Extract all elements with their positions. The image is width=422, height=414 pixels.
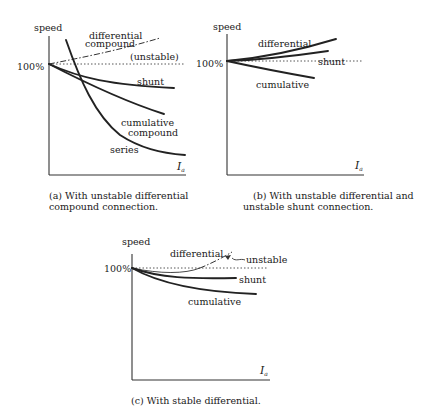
panel-c-y-label: speed <box>122 236 150 247</box>
panel-b-label-cumulative: cumulative <box>256 79 309 90</box>
panel-b-cumulative-curve <box>227 61 314 78</box>
panel-c-cumulative-curve <box>132 268 256 294</box>
panel-c-caption: (c) With stable differential. <box>131 395 261 406</box>
panel-b-caption-line-2: unstable shunt connection. <box>243 201 373 212</box>
panel-a: speed 100% Ia differential compound (uns… <box>17 22 188 212</box>
panel-c-label-cumulative: cumulative <box>188 296 241 307</box>
speed-current-diagram: speed 100% Ia differential compound (uns… <box>0 0 422 414</box>
panel-b-x-label: Ia <box>354 159 363 172</box>
panel-a-caption-line-1: (a) With unstable differential <box>49 190 188 201</box>
panel-a-label-differential-compound: compound <box>85 38 135 49</box>
panel-c-shunt-curve <box>132 268 236 278</box>
panel-c-100-percent-label: 100% <box>104 263 131 274</box>
panel-b-100-percent-label: 100% <box>196 58 223 69</box>
panel-c-label-unstable: unstable <box>246 254 288 265</box>
panel-c: speed 100% Ia differential unstable shun… <box>104 236 288 406</box>
panel-b-label-differential: differential <box>258 38 311 49</box>
panel-c-unstable-leader-line <box>232 258 245 260</box>
panel-b-y-label: speed <box>213 21 241 32</box>
panel-b-label-shunt: shunt <box>318 56 345 67</box>
panel-b-caption-line-1: (b) With unstable differential and <box>253 190 414 201</box>
panel-a-caption-line-2: compound connection. <box>49 201 158 212</box>
panel-b-shunt-curve <box>227 51 328 61</box>
panel-c-label-differential: differential <box>170 248 223 259</box>
panel-a-label-cumulative-compound: compound <box>128 127 178 138</box>
panel-a-label-series: series <box>110 144 139 155</box>
panel-a-100-percent-label: 100% <box>17 61 44 72</box>
panel-a-x-label: Ia <box>176 160 185 173</box>
panel-c-label-shunt: shunt <box>239 274 266 285</box>
panel-a-label-shunt: shunt <box>137 76 164 87</box>
panel-a-label-unstable: (unstable) <box>130 51 179 62</box>
panel-a-y-label: speed <box>34 22 62 33</box>
panel-c-x-label: Ia <box>259 364 268 377</box>
panel-b: speed 100% Ia differential shunt cumulat… <box>196 21 414 212</box>
